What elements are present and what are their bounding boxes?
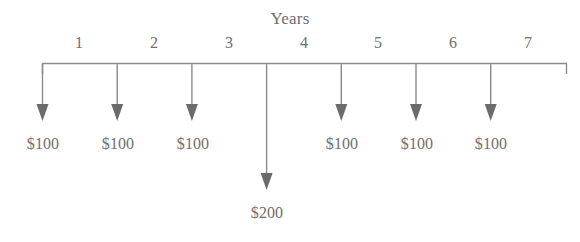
year-label-3: 3 (225, 35, 233, 51)
cash-flow-label-5: $100 (326, 136, 358, 152)
year-label-1: 1 (75, 35, 83, 51)
cash-flow-label-1: $100 (27, 136, 59, 152)
cash-flow-label-3: $100 (177, 136, 209, 152)
cash-flow-arrow-2 (111, 64, 123, 122)
cash-flow-arrow-4 (261, 64, 273, 191)
cash-flow-arrow-3 (186, 64, 198, 122)
cash-flow-arrow-7 (485, 64, 497, 122)
cash-flow-label-2: $100 (102, 136, 134, 152)
year-label-4: 4 (300, 35, 308, 51)
cash-flow-arrow-5 (335, 64, 347, 122)
year-label-2: 2 (150, 35, 158, 51)
timeline-graphic (0, 0, 580, 242)
chart-title: Years (271, 10, 310, 27)
cash-flow-label-7: $100 (475, 136, 507, 152)
year-label-5: 5 (374, 35, 382, 51)
cash-flow-label-4: $200 (251, 205, 283, 221)
cash-flow-arrow-1 (37, 64, 49, 122)
cash-flow-label-6: $100 (401, 136, 433, 152)
year-label-7: 7 (524, 35, 532, 51)
year-label-6: 6 (449, 35, 457, 51)
cash-flow-timeline-diagram: Years 1 2 3 4 5 6 7 $100 $100 $100 $200 … (0, 0, 580, 242)
cash-flow-arrow-6 (410, 64, 422, 122)
